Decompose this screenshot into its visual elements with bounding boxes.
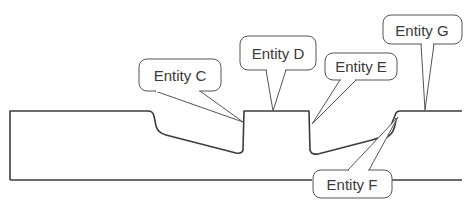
callout-entity-e: Entity E [312, 53, 397, 124]
callout-g-pointer [421, 44, 434, 110]
callout-e-label: Entity E [335, 58, 387, 75]
callout-e-pointer [312, 80, 356, 124]
callout-entity-f: Entity F [313, 117, 398, 198]
callout-entity-d: Entity D [240, 36, 316, 111]
callout-d-pointer [266, 70, 286, 111]
profile-diagram: Entity C Entity D Entity E Entity F Enti… [0, 0, 470, 209]
callout-c-label: Entity C [154, 67, 207, 84]
callout-c-pointer [155, 91, 243, 122]
callout-entity-c: Entity C [139, 59, 243, 122]
callout-d-label: Entity D [252, 45, 305, 62]
callout-f-label: Entity F [327, 176, 378, 193]
callout-g-label: Entity G [395, 22, 448, 39]
